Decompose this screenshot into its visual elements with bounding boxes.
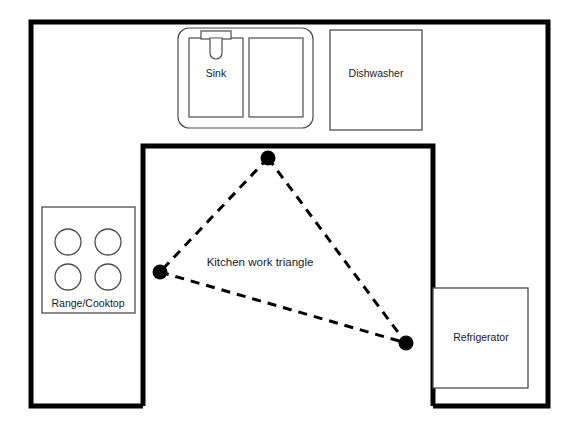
dishwasher-box <box>330 30 422 130</box>
sink-label: Sink <box>206 67 227 79</box>
range-cooktop-label: Range/Cooktop <box>52 297 125 309</box>
refrigerator-label: Refrigerator <box>453 331 509 343</box>
refrigerator-unit[interactable]: Refrigerator <box>433 288 528 388</box>
dishwasher-label: Dishwasher <box>349 67 404 79</box>
work-triangle: Kitchen work triangle <box>153 151 414 351</box>
burner-top-right <box>95 229 121 255</box>
burner-bottom-left <box>55 264 81 290</box>
sink-faucet-spout <box>210 38 222 59</box>
floorplan-canvas: Sink Dishwasher Range/Cooktop Refrigerat… <box>0 0 568 425</box>
kitchen-floorplan-diagram: Sink Dishwasher Range/Cooktop Refrigerat… <box>0 0 568 425</box>
sink-basin-right <box>249 38 303 117</box>
dishwasher-unit[interactable]: Dishwasher <box>330 30 422 130</box>
triangle-edge-sink-to-range <box>160 158 268 272</box>
work-triangle-label: Kitchen work triangle <box>207 256 314 268</box>
triangle-vertex-sink <box>261 151 276 166</box>
burner-top-left <box>55 229 81 255</box>
triangle-edge-range-to-refrigerator <box>160 272 406 343</box>
burner-bottom-right <box>95 264 121 290</box>
triangle-vertex-refrigerator <box>399 336 414 351</box>
sink-unit[interactable]: Sink <box>178 28 313 128</box>
triangle-vertex-range <box>153 265 168 280</box>
triangle-edge-sink-to-refrigerator <box>268 158 406 343</box>
range-cooktop-unit[interactable]: Range/Cooktop <box>42 207 135 313</box>
